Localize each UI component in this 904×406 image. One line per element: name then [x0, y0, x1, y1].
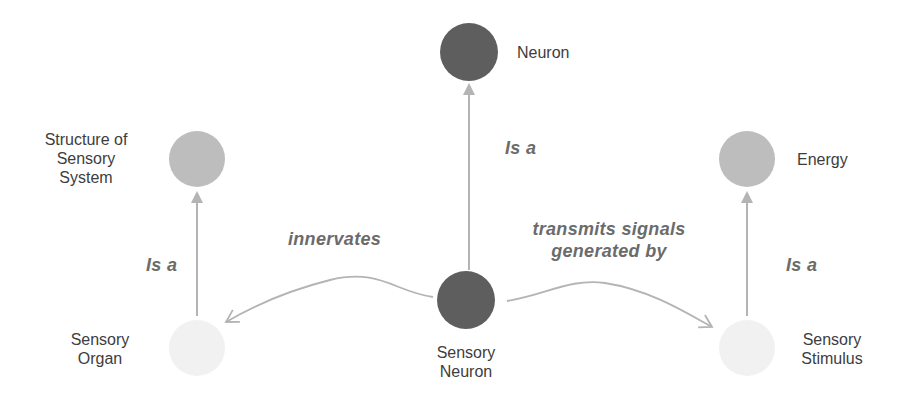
edge-label-is-a-energy: Is a — [786, 254, 817, 276]
edge-label-transmits-signals: transmits signals generated by — [509, 218, 709, 262]
edge-sensory-neuron-to-neuron — [463, 83, 475, 270]
edge-label-is-a-structure: Is a — [146, 254, 177, 276]
node-label-sensory-neuron: Sensory Neuron — [426, 343, 506, 381]
arrowhead-icon — [463, 83, 475, 95]
concept-diagram: Neuron Structure of Sensory System Energ… — [0, 0, 904, 406]
edge-label-innervates: innervates — [288, 228, 381, 250]
edge-sensory-stimulus-to-energy — [741, 191, 753, 316]
node-structure-of-sensory-system[interactable] — [169, 131, 225, 187]
node-label-neuron: Neuron — [517, 43, 569, 62]
arrowhead-icon — [741, 191, 753, 203]
node-label-sensory-organ: Sensory Organ — [60, 330, 140, 368]
node-label-sensory-stimulus: Sensory Stimulus — [792, 330, 872, 368]
node-sensory-neuron[interactable] — [437, 271, 495, 329]
node-label-structure-of-sensory-system: Structure of Sensory System — [26, 130, 146, 187]
node-neuron[interactable] — [440, 23, 498, 81]
node-sensory-organ[interactable] — [169, 320, 225, 376]
edge-transmits-signals — [507, 282, 712, 327]
arrowhead-icon — [191, 191, 203, 203]
node-sensory-stimulus[interactable] — [719, 320, 775, 376]
edge-innervates — [226, 277, 433, 322]
edge-label-is-a-neuron: Is a — [505, 137, 536, 159]
node-energy[interactable] — [719, 131, 775, 187]
node-label-energy: Energy — [797, 150, 848, 169]
edge-sensory-organ-to-structure — [191, 191, 203, 316]
